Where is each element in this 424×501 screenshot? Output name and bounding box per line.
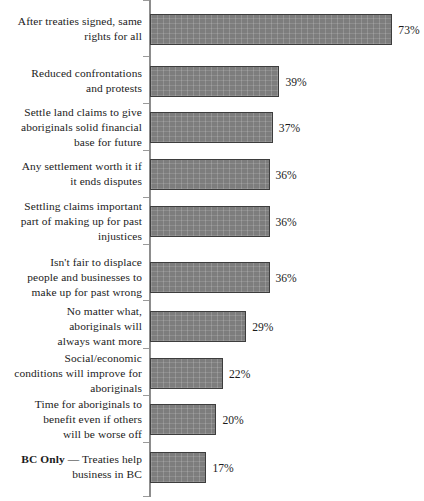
bar: [150, 14, 392, 45]
bar-value-label: 36%: [276, 168, 297, 181]
horizontal-bar-chart: After treaties signed, samerights for al…: [0, 0, 424, 501]
bar-category-label: Any settlement worth it ifit ends disput…: [2, 159, 142, 190]
bar: [150, 404, 216, 435]
bar-container: 36%: [150, 206, 270, 237]
bar: [150, 358, 223, 389]
bar-value-label: 39%: [285, 75, 306, 88]
axis-tick: [143, 244, 149, 245]
bar-value-label: 36%: [276, 271, 297, 284]
bar-category-label-emphasis: BC Only: [21, 453, 64, 465]
bar-container: 20%: [150, 404, 216, 435]
bar-value-label: 17%: [212, 461, 233, 474]
bar: [150, 112, 273, 143]
axis-tick: [143, 150, 149, 151]
bar: [150, 311, 246, 342]
axis-tick: [143, 103, 149, 104]
axis-tick: [143, 348, 149, 349]
bar-category-label: After treaties signed, samerights for al…: [2, 14, 142, 45]
axis-tick: [143, 300, 149, 301]
bar-value-label: 22%: [229, 367, 250, 380]
bar-container: 36%: [150, 262, 270, 293]
axis-tick: [143, 56, 149, 57]
bar-container: 22%: [150, 358, 223, 389]
axis-tick: [143, 496, 149, 497]
bar-container: 29%: [150, 311, 246, 342]
bar: [150, 66, 279, 97]
bar-category-label: Reduced confrontationsand protests: [2, 66, 142, 97]
bar-category-label: Social/economicconditions will improve f…: [2, 351, 142, 397]
bar-container: 39%: [150, 66, 279, 97]
axis-tick: [143, 395, 149, 396]
bar-value-label: 20%: [222, 413, 243, 426]
axis-tick: [143, 0, 149, 1]
axis-tick: [143, 442, 149, 443]
bar: [150, 452, 206, 483]
bar-category-label: BC Only — Treaties helpbusiness in BC: [2, 452, 142, 483]
bar-category-label: Settle land claims to giveaboriginals so…: [2, 105, 142, 151]
bar-category-label: No matter what,aboriginals willalways wa…: [2, 304, 142, 350]
bar-value-label: 29%: [252, 320, 273, 333]
bar-container: 37%: [150, 112, 273, 143]
bar: [150, 159, 270, 190]
bar-category-label: Time for aboriginals tobenefit even if o…: [2, 397, 142, 443]
bar-category-label: Isn't fair to displacepeople and busines…: [2, 255, 142, 301]
bar-value-label: 36%: [276, 215, 297, 228]
bar-value-label: 73%: [398, 23, 419, 36]
bar-container: 73%: [150, 14, 392, 45]
axis-tick: [143, 197, 149, 198]
bar-category-label: Settling claims importantpart of making …: [2, 199, 142, 245]
bar-container: 36%: [150, 159, 270, 190]
bar-value-label: 37%: [279, 121, 300, 134]
bar-container: 17%: [150, 452, 206, 483]
bar: [150, 206, 270, 237]
bar: [150, 262, 270, 293]
